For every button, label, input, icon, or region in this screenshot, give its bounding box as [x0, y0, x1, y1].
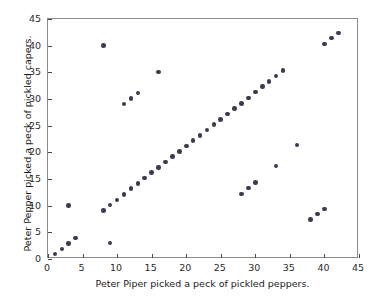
- x-tick-label: 20: [179, 262, 191, 273]
- data-point: [225, 112, 230, 117]
- y-tick-mark: [48, 72, 52, 73]
- data-point: [239, 101, 244, 106]
- data-point: [274, 164, 279, 169]
- data-point: [336, 31, 341, 36]
- x-tick-label: 0: [44, 262, 50, 273]
- x-tick-label: 35: [283, 262, 295, 273]
- data-point: [156, 165, 161, 170]
- x-tick-label: 10: [110, 262, 122, 273]
- y-tick-mark: [48, 46, 52, 47]
- data-point: [246, 96, 251, 101]
- x-tick-mark: [290, 254, 291, 258]
- data-point: [122, 192, 127, 197]
- data-point: [329, 36, 334, 41]
- data-point: [101, 208, 106, 213]
- x-tick-mark: [255, 254, 256, 258]
- data-point: [198, 133, 203, 138]
- x-tick-mark: [186, 254, 187, 258]
- x-tick-label: 40: [317, 262, 329, 273]
- data-point: [212, 122, 217, 127]
- y-tick-mark: [48, 232, 52, 233]
- x-tick-mark: [117, 254, 118, 258]
- data-point: [73, 236, 78, 241]
- data-point: [267, 79, 272, 84]
- data-point: [142, 176, 147, 181]
- data-point: [170, 154, 175, 159]
- data-point: [295, 143, 300, 148]
- y-tick-mark: [48, 152, 52, 153]
- y-tick-mark: [48, 259, 52, 260]
- data-point: [122, 102, 127, 107]
- x-tick-mark: [83, 254, 84, 258]
- data-point: [108, 203, 113, 208]
- data-point: [163, 160, 168, 165]
- data-point: [66, 241, 71, 246]
- plot-area: [47, 18, 358, 258]
- data-point: [274, 74, 279, 79]
- x-tick-label: 15: [145, 262, 157, 273]
- data-point: [322, 207, 327, 212]
- data-point: [191, 138, 196, 143]
- data-point: [322, 42, 327, 47]
- data-point: [308, 217, 313, 222]
- y-tick-mark: [48, 19, 52, 20]
- data-point: [281, 68, 286, 73]
- data-point: [184, 144, 189, 149]
- data-point: [136, 181, 141, 186]
- data-point: [115, 198, 120, 203]
- data-point: [149, 170, 154, 175]
- scatter-chart-figure: 051015202530354045 051015202530354045 Pe…: [0, 0, 380, 302]
- y-tick-mark: [48, 179, 52, 180]
- x-tick-mark: [359, 254, 360, 258]
- y-tick-mark: [48, 206, 52, 207]
- x-tick-label: 45: [352, 262, 364, 273]
- data-point: [205, 128, 210, 133]
- y-axis-label: Peter Pepper picked a peck of pickled ca…: [22, 14, 33, 274]
- y-tick-mark: [48, 126, 52, 127]
- data-point: [253, 90, 258, 95]
- data-point: [177, 149, 182, 154]
- data-point: [239, 192, 244, 197]
- data-point: [136, 91, 141, 96]
- data-point: [232, 106, 237, 111]
- data-point: [260, 84, 265, 89]
- data-point: [129, 186, 134, 191]
- data-point: [156, 70, 161, 75]
- data-point: [66, 203, 71, 208]
- data-point: [315, 212, 320, 217]
- x-tick-mark: [324, 254, 325, 258]
- x-axis-label: Peter Piper picked a peck of pickled pep…: [47, 278, 358, 289]
- x-tick-label: 5: [79, 262, 85, 273]
- y-tick-mark: [48, 99, 52, 100]
- x-tick-mark: [48, 254, 49, 258]
- x-tick-label: 30: [248, 262, 260, 273]
- data-point: [101, 43, 106, 48]
- data-point: [253, 180, 258, 185]
- x-tick-label: 25: [214, 262, 226, 273]
- data-point: [108, 241, 113, 246]
- data-point: [53, 252, 58, 257]
- x-tick-mark: [152, 254, 153, 258]
- x-tick-mark: [221, 254, 222, 258]
- data-point: [60, 247, 65, 252]
- data-points-layer: [48, 19, 357, 257]
- data-point: [129, 96, 134, 101]
- data-point: [218, 117, 223, 122]
- data-point: [246, 186, 251, 191]
